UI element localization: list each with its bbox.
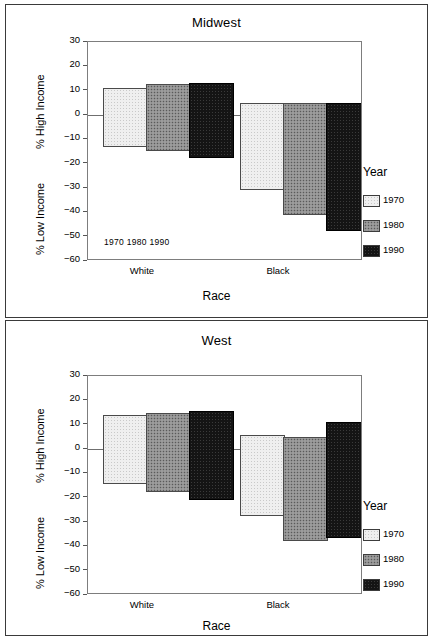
y-tick-label: −10: [64, 465, 80, 476]
legend-swatch-1990: [363, 579, 380, 591]
bar-black-1980: [283, 437, 328, 541]
legend-swatch-1980: [363, 220, 380, 232]
y-tick-label: −20: [64, 490, 80, 501]
legend-label-1970: 1970: [383, 528, 404, 539]
y-tick-label: 0: [75, 441, 80, 452]
y-tick-label: 10: [69, 83, 80, 94]
legend-title-west: Year: [363, 499, 387, 513]
bar-white-1970: [103, 88, 148, 147]
bar-white-1980: [146, 413, 191, 492]
legend-label-1990: 1990: [383, 578, 404, 589]
plot-area-west: [87, 375, 362, 594]
x-category-white-west: White: [102, 599, 182, 610]
bar-black-1990: [326, 103, 362, 231]
y-tick-label: −40: [64, 204, 80, 215]
y-tick-label: −60: [64, 253, 80, 264]
x-axis-title-west: Race: [6, 619, 427, 633]
panel-title-midwest: Midwest: [6, 15, 427, 30]
y-tick-label: 0: [75, 107, 80, 118]
plot-area-midwest: [87, 41, 362, 260]
legend-label-1980: 1980: [383, 553, 404, 564]
y-tick-label: −40: [64, 538, 80, 549]
y-axis-upper-label-midwest: % High Income: [34, 74, 46, 149]
bar-black-1980: [283, 103, 328, 214]
y-axis-lower-label-midwest: % Low Income: [34, 183, 46, 255]
y-tick-label: −60: [64, 587, 80, 598]
y-tick-label: 30: [69, 368, 80, 379]
bar-black-1970: [240, 103, 285, 190]
y-tick-label: 30: [69, 34, 80, 45]
bar-white-1970: [103, 415, 148, 483]
legend-title-midwest: Year: [363, 165, 387, 179]
y-tick-label: −50: [64, 563, 80, 574]
x-category-black-west: Black: [238, 599, 318, 610]
legend-swatch-1970: [363, 195, 380, 207]
y-axis-upper-label-west: % High Income: [34, 408, 46, 483]
y-tick-label: −20: [64, 156, 80, 167]
y-tick-label: −30: [64, 514, 80, 525]
y-tick-label: 20: [69, 392, 80, 403]
bar-black-1990: [326, 422, 362, 538]
legend-swatch-1990: [363, 245, 380, 257]
legend-label-1980: 1980: [383, 219, 404, 230]
legend-swatch-1970: [363, 529, 380, 541]
figure-two-panel-bar-chart: Midwest % High Income % Low Income 30201…: [0, 0, 433, 642]
y-tick-label: −50: [64, 229, 80, 240]
bar-black-1970: [240, 435, 285, 516]
panel-midwest: Midwest % High Income % Low Income 30201…: [5, 4, 428, 318]
bar-white-1990: [189, 83, 234, 158]
panel-title-west: West: [6, 333, 427, 348]
legend-label-1990: 1990: [383, 244, 404, 255]
bar-white-1990: [189, 411, 234, 500]
x-category-black-midwest: Black: [238, 265, 318, 276]
y-tick-label: −10: [64, 131, 80, 142]
y-tick-label: −30: [64, 180, 80, 191]
panel-west: West % High Income % Low Income 3020100−…: [5, 320, 428, 636]
y-tick-label: 10: [69, 417, 80, 428]
bar-white-1980: [146, 84, 191, 151]
y-tick-label: 20: [69, 58, 80, 69]
legend-swatch-1980: [363, 554, 380, 566]
year-marks-midwest: 1970 1980 1990: [104, 237, 170, 247]
x-category-white-midwest: White: [102, 265, 182, 276]
legend-label-1970: 1970: [383, 194, 404, 205]
y-axis-lower-label-west: % Low Income: [34, 517, 46, 589]
x-axis-title-midwest: Race: [6, 289, 427, 303]
